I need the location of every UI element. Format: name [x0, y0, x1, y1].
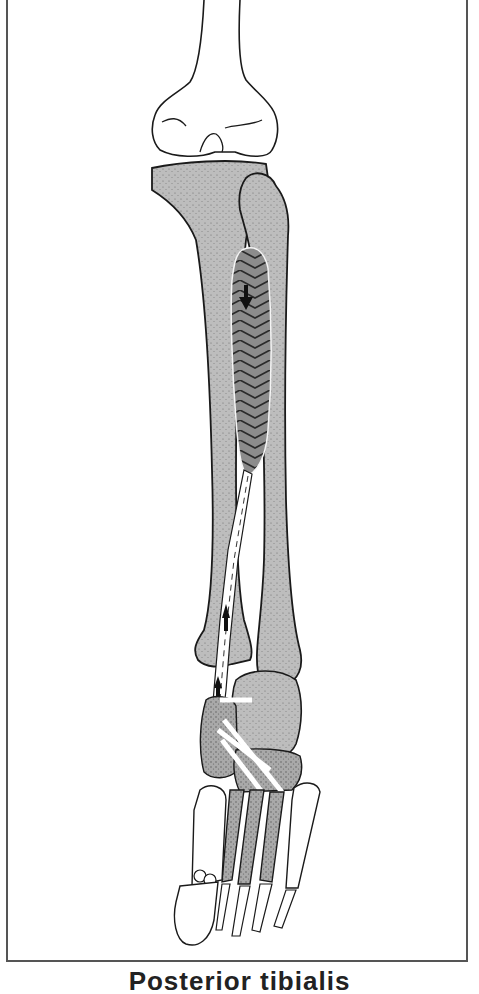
muscle-belly [231, 248, 271, 476]
figure-caption: Posterior tibialis [0, 966, 479, 994]
femur [152, 0, 277, 156]
phalanges [174, 882, 296, 945]
metatarsals [192, 783, 320, 888]
anatomy-illustration [0, 0, 479, 962]
